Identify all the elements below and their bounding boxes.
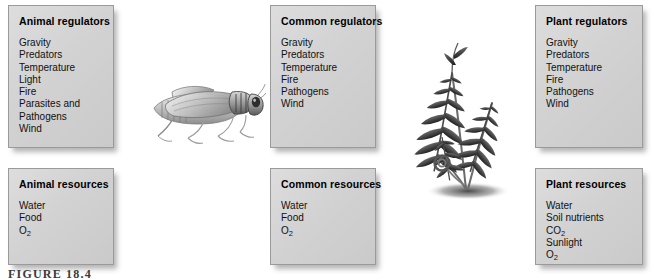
box-title: Animal regulators (19, 15, 103, 27)
figure-caption: FIGURE 18.4 (8, 267, 92, 280)
box-title: Animal resources (19, 178, 103, 190)
list-item: Temperature (546, 62, 632, 74)
fern-tip (444, 43, 468, 73)
box-plant-regulators: Plant regulators Gravity Predators Tempe… (535, 5, 643, 148)
list-item: Parasites and (19, 98, 103, 110)
list-item: Predators (281, 49, 365, 61)
list-item: Food (281, 212, 365, 224)
list-item: Sunlight (546, 237, 632, 249)
fern-illustration (406, 33, 526, 208)
box-animal-resources: Animal resources Water Food O2 (8, 168, 114, 265)
list-item: O2 (19, 225, 103, 237)
box-item-list: Gravity Predators Temperature Fire Patho… (546, 37, 632, 111)
box-plant-resources: Plant resources Water Soil nutrients CO2… (535, 168, 643, 265)
box-title: Common resources (281, 178, 365, 190)
grasshopper-eye (252, 97, 260, 107)
box-title: Common regulators (281, 15, 365, 27)
box-item-list: Water Food O2 (281, 200, 365, 237)
list-item: Temperature (281, 62, 365, 74)
list-item: Pathogens (546, 86, 632, 98)
list-item: Fire (546, 74, 632, 86)
subscript: 2 (289, 229, 293, 238)
subscript: 2 (554, 253, 558, 262)
box-title: Plant resources (546, 178, 632, 190)
list-item: Wind (19, 123, 103, 135)
list-item: Fire (281, 74, 365, 86)
subscript: 2 (561, 229, 565, 238)
list-item: CO2 (546, 225, 632, 237)
list-item: Wind (281, 98, 365, 110)
box-item-list: Water Soil nutrients CO2 Sunlight O2 (546, 200, 632, 261)
list-item: Fire (19, 86, 103, 98)
list-item: Gravity (546, 37, 632, 49)
subscript: 2 (27, 229, 31, 238)
list-item: Gravity (19, 37, 103, 49)
list-item: Water (19, 200, 103, 212)
list-item: Predators (19, 49, 103, 61)
list-item: Pathogens (281, 86, 365, 98)
list-item: Food (19, 212, 103, 224)
list-item: Water (546, 200, 632, 212)
box-animal-regulators: Animal regulators Gravity Predators Temp… (8, 5, 114, 148)
list-item: O2 (546, 249, 632, 261)
box-item-list: Gravity Predators Temperature Fire Patho… (281, 37, 365, 111)
grasshopper-illustration (148, 62, 266, 152)
box-title: Plant regulators (546, 15, 632, 27)
list-item: Wind (546, 98, 632, 110)
list-item: Soil nutrients (546, 212, 632, 224)
box-common-regulators: Common regulators Gravity Predators Temp… (270, 5, 376, 148)
list-item: O2 (281, 225, 365, 237)
box-item-list: Gravity Predators Temperature Light Fire… (19, 37, 103, 135)
box-item-list: Water Food O2 (19, 200, 103, 237)
list-item: Light (19, 74, 103, 86)
figure-root: Animal regulators Gravity Predators Temp… (0, 0, 654, 280)
list-item: Temperature (19, 62, 103, 74)
fern-ground-shadow (426, 182, 510, 200)
list-item: Pathogens (19, 111, 103, 123)
box-common-resources: Common resources Water Food O2 (270, 168, 376, 265)
list-item: Predators (546, 49, 632, 61)
list-item: Water (281, 200, 365, 212)
list-item: Gravity (281, 37, 365, 49)
